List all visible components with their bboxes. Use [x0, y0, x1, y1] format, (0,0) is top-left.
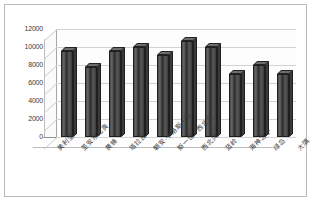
y-axis-tick-label: 2000 — [9, 115, 43, 122]
bar-front-face — [61, 51, 73, 137]
bar-side-face — [289, 70, 293, 137]
bar-side-face — [145, 43, 149, 137]
bar-front-face — [277, 74, 289, 137]
bar-side-face — [217, 43, 221, 137]
x-axis-tick-label: 大隅 — [296, 137, 312, 153]
bar-series — [56, 29, 296, 137]
bar-side-face — [193, 37, 197, 137]
y-axis-tick-label: 0 — [9, 133, 43, 140]
bar-side-face — [241, 70, 245, 137]
bar[interactable] — [85, 67, 97, 137]
bar-side-face — [73, 47, 77, 137]
chart-frame: 120001000080006000400020000 美利坚圣安东尼奥黄蜂塔拉… — [4, 4, 307, 197]
chart-plot-wrapper: 120001000080006000400020000 美利坚圣安东尼奥黄蜂塔拉… — [5, 5, 308, 198]
bar-front-face — [109, 51, 121, 137]
bar[interactable] — [229, 74, 241, 137]
y-axis-tick-label: 12000 — [9, 25, 43, 32]
y-axis: 120001000080006000400020000 — [7, 5, 43, 198]
bar[interactable] — [253, 65, 265, 137]
bar-front-face — [157, 55, 169, 137]
bar[interactable] — [109, 51, 121, 137]
bar-side-face — [265, 61, 269, 137]
y-axis-tick-label: 10000 — [9, 43, 43, 50]
bar[interactable] — [157, 55, 169, 137]
x-axis-labels: 美利坚圣安东尼奥黄蜂塔拉瓦朝安·卡洛斯一世斯一世 · 西北风西北风蓝岭海神之子绿… — [44, 147, 304, 197]
y-axis-tick-label: 6000 — [9, 79, 43, 86]
bar-front-face — [85, 67, 97, 137]
bar[interactable] — [277, 74, 289, 137]
bar-front-face — [229, 74, 241, 137]
bar[interactable] — [61, 51, 73, 137]
bar-side-face — [169, 52, 173, 137]
bar-front-face — [133, 47, 145, 137]
bar[interactable] — [133, 47, 145, 137]
bar-front-face — [253, 65, 265, 137]
y-axis-tick-label: 8000 — [9, 61, 43, 68]
y-axis-tick-label: 4000 — [9, 97, 43, 104]
bar-side-face — [121, 47, 125, 137]
